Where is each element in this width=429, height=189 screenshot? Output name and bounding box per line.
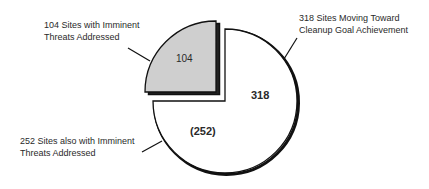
leader-line-318 xyxy=(284,38,297,59)
slice-value-252: (252) xyxy=(190,125,216,137)
label-104-line2: Threats Addressed xyxy=(44,31,120,43)
label-252-line2: Threats Addressed xyxy=(20,147,96,159)
label-318-line1: 318 Sites Moving Toward xyxy=(299,12,399,24)
label-104-line1: 104 Sites with Imminent xyxy=(44,19,140,31)
slice-value-104: 104 xyxy=(176,53,193,65)
slice-value-318: 318 xyxy=(251,89,269,101)
leader-line-104 xyxy=(128,48,150,61)
label-318-line2: Cleanup Goal Achievement xyxy=(299,24,408,36)
leader-line-252 xyxy=(142,141,162,152)
label-252-line1: 252 Sites also with Imminent xyxy=(20,135,135,147)
